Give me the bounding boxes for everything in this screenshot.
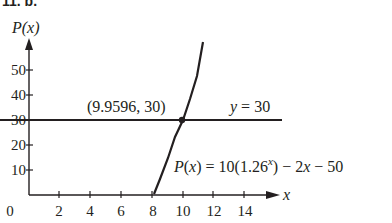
chart-canvas: 11. b. P(x) x 10 20 30 40 50 0 2 4 6 [0, 0, 392, 223]
svg-text:12: 12 [207, 203, 222, 219]
y-axis-arrow-icon [25, 38, 33, 50]
svg-text:0: 0 [6, 203, 14, 219]
svg-text:10: 10 [176, 203, 191, 219]
curve-label: P(x) = 10(1.26x) − 2x − 50 [173, 155, 343, 176]
svg-text:14: 14 [238, 203, 254, 219]
svg-text:10: 10 [11, 162, 26, 178]
svg-text:2: 2 [55, 203, 63, 219]
svg-text:8: 8 [149, 203, 157, 219]
x-tick-labels: 0 2 4 6 8 10 12 14 [6, 203, 253, 219]
x-axis-label: x [282, 186, 290, 203]
x-axis-arrow-icon [266, 191, 280, 199]
y-axis-label: P(x) [11, 19, 40, 37]
intersection-point-marker [179, 117, 185, 123]
line-label: y = 30 [228, 98, 270, 116]
intersection-label: (9.9596, 30) [87, 98, 166, 116]
svg-text:50: 50 [11, 62, 26, 78]
svg-text:6: 6 [117, 203, 125, 219]
svg-text:20: 20 [11, 137, 26, 153]
svg-text:40: 40 [11, 87, 26, 103]
svg-text:4: 4 [86, 203, 94, 219]
problem-label: 11. b. [2, 0, 37, 9]
